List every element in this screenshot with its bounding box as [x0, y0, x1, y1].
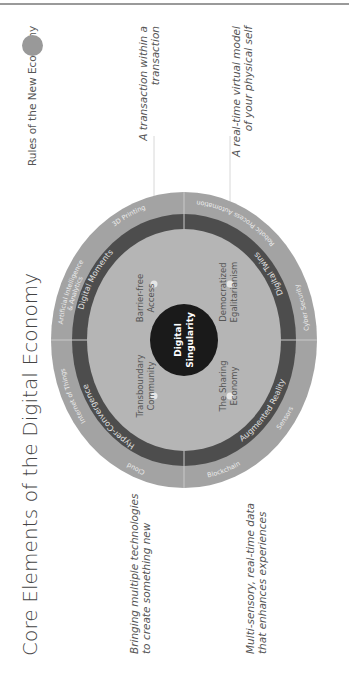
annotation-digital-moments-line2: transaction	[149, 26, 161, 176]
core-circle	[150, 304, 218, 376]
annotation-digital-twins-line1: A real-time virtual model	[230, 26, 242, 176]
annotation-digital-moments-line1: A transaction within a	[137, 26, 149, 176]
annotation-digital-twins: A real-time virtual model of your physic…	[230, 26, 254, 176]
inner-label-transboundary-1: Transboundary	[135, 355, 145, 419]
core-label-line1: Digital	[173, 323, 183, 357]
core-label-line2: Singularity	[185, 312, 195, 368]
annotation-hyper-convergence-line1: Bringing multiple technologies	[128, 494, 140, 654]
inner-label-transboundary-2: Community	[146, 361, 156, 410]
inner-label-barrier-free-1: Barrier-free	[135, 274, 145, 322]
rotated-diagram-canvas: Core Elements of the Digital Economy Rul…	[0, 0, 349, 676]
annotation-augmented-reality: Multi-sensory, real-time data that enhan…	[244, 503, 268, 654]
inner-label-barrier-free-2: Access	[146, 283, 156, 313]
inner-label-democratized-2: Egalitarianism	[229, 262, 239, 323]
digital-economy-diagram: Digital Singularity Barrier-free Access …	[0, 0, 349, 676]
annotation-digital-moments: A transaction within a transaction	[137, 26, 161, 176]
inner-label-sharing-1: The Sharing	[218, 360, 228, 412]
annotation-augmented-reality-line1: Multi-sensory, real-time data	[244, 503, 256, 654]
annotation-digital-twins-line2: of your physical self	[242, 26, 254, 176]
inner-label-sharing-2: Economy	[229, 366, 239, 405]
inner-label-democratized-1: Democratized	[218, 262, 228, 321]
annotation-hyper-convergence-line2: to create something new	[140, 494, 152, 654]
annotation-augmented-reality-line2: that enhances experiences	[256, 503, 268, 654]
annotation-hyper-convergence: Bringing multiple technologies to create…	[128, 494, 152, 654]
